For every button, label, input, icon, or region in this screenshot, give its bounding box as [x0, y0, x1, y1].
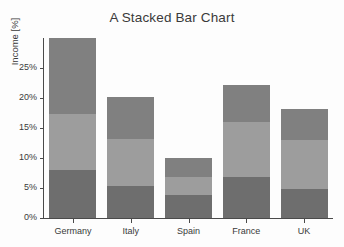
bar-segment-italy-series-2-middle[interactable] — [107, 139, 154, 186]
bar-segment-germany-series-3-top[interactable] — [49, 38, 96, 114]
plot-area — [44, 38, 333, 218]
x-axis-label-italy: Italy — [122, 226, 139, 236]
y-axis-tick: 15% — [0, 128, 44, 129]
x-axis-tick-mark — [73, 219, 74, 223]
bar-segment-france-series-3-top[interactable] — [223, 85, 270, 122]
bar-segment-uk-series-2-middle[interactable] — [281, 140, 328, 189]
bar-segment-italy-series-1-bottom[interactable] — [107, 186, 154, 218]
y-axis-tick: 25% — [0, 68, 44, 69]
x-axis-tick-mark — [246, 219, 247, 223]
y-axis-tick-label: 5% — [24, 182, 37, 192]
bar-segment-germany-series-2-middle[interactable] — [49, 114, 96, 170]
bar-segment-france-series-2-middle[interactable] — [223, 122, 270, 177]
stacked-bar-chart-figure: A Stacked Bar Chart Income [%] 0%5%10%15… — [0, 0, 344, 247]
bar-segment-germany-series-1-bottom[interactable] — [49, 170, 96, 218]
bar-group-italy[interactable] — [107, 38, 154, 218]
x-axis-label-spain: Spain — [177, 226, 200, 236]
bar-segment-italy-series-3-top[interactable] — [107, 97, 154, 139]
y-axis-tick: 20% — [0, 98, 44, 99]
x-axis-tick-mark — [189, 219, 190, 223]
bar-group-spain[interactable] — [165, 38, 212, 218]
y-axis-tick-label: 10% — [19, 152, 37, 162]
y-axis-tick-mark — [40, 218, 44, 219]
x-axis-tick-mark — [131, 219, 132, 223]
y-axis-tick-label: 20% — [19, 92, 37, 102]
bar-segment-uk-series-1-bottom[interactable] — [281, 189, 328, 218]
x-axis-label-germany: Germany — [54, 226, 91, 236]
x-axis-label-uk: UK — [298, 226, 311, 236]
bar-segment-spain-series-2-middle[interactable] — [165, 177, 212, 194]
bar-group-germany[interactable] — [49, 38, 96, 218]
bar-segment-spain-series-1-bottom[interactable] — [165, 195, 212, 218]
y-axis-tick: 0% — [0, 218, 44, 219]
bar-segment-uk-series-3-top[interactable] — [281, 109, 328, 140]
y-axis-label: Income [%] — [9, 7, 20, 77]
bar-group-uk[interactable] — [281, 38, 328, 218]
bar-segment-spain-series-3-top[interactable] — [165, 158, 212, 177]
x-axis-tick-mark — [304, 219, 305, 223]
bar-segment-france-series-1-bottom[interactable] — [223, 177, 270, 218]
x-axis-label-france: France — [232, 226, 260, 236]
y-axis-tick: 5% — [0, 188, 44, 189]
y-axis-tick-label: 0% — [24, 212, 37, 222]
y-axis-tick-label: 25% — [19, 62, 37, 72]
y-axis-tick: 10% — [0, 158, 44, 159]
y-axis-tick-label: 15% — [19, 122, 37, 132]
chart-title: A Stacked Bar Chart — [0, 10, 344, 25]
bar-group-france[interactable] — [223, 38, 270, 218]
